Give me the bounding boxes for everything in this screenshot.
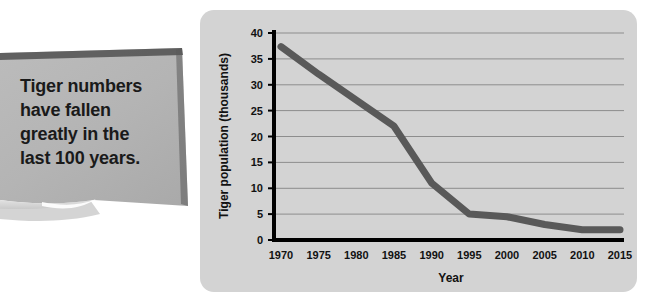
y-tick-label: 5 — [257, 208, 263, 220]
callout-text: Tiger numbers have fallen greatly in the… — [20, 74, 180, 170]
x-tick-label: 2010 — [570, 249, 594, 261]
y-tick-label: 20 — [251, 131, 263, 143]
x-tick-label: 2000 — [495, 249, 519, 261]
y-tick-label: 15 — [251, 156, 263, 168]
gridlines — [274, 33, 624, 214]
x-tick-label: 1990 — [419, 249, 443, 261]
data-line-tiger-population — [281, 47, 620, 230]
y-axis-title: Tiger population (thousands) — [217, 53, 231, 219]
x-tick-label: 2015 — [608, 249, 632, 261]
x-tick-label: 1980 — [344, 249, 368, 261]
line-chart: 40 35 30 25 20 15 10 5 0 Tiger populatio… — [200, 10, 637, 292]
y-tick-label: 35 — [251, 53, 263, 65]
x-tick-label: 1975 — [306, 249, 330, 261]
y-tick-label: 0 — [257, 234, 263, 246]
x-tick-label: 1995 — [457, 249, 481, 261]
x-tick-label: 2005 — [532, 249, 556, 261]
y-tick-label: 10 — [251, 182, 263, 194]
chart-panel: 40 35 30 25 20 15 10 5 0 Tiger populatio… — [200, 10, 637, 292]
callout-note: Tiger numbers have fallen greatly in the… — [0, 48, 194, 244]
y-tick-label: 40 — [251, 27, 263, 39]
x-tick-labels: 1970 1975 1980 1985 1990 1995 2000 2005 … — [269, 249, 632, 261]
x-tick-label: 1985 — [382, 249, 406, 261]
x-axis-title: Year — [438, 271, 464, 285]
y-tick-label: 25 — [251, 105, 263, 117]
y-tick-labels: 40 35 30 25 20 15 10 5 0 — [251, 27, 263, 246]
x-tick-label: 1970 — [269, 249, 293, 261]
y-tick-label: 30 — [251, 79, 263, 91]
